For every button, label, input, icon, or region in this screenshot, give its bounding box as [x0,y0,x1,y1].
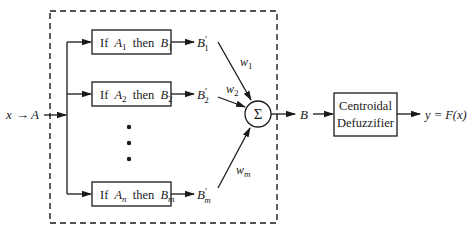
centroidal-defuzzifier-box: Centroidal Defuzzifier [334,93,397,136]
weight-label-2: w2 [226,82,239,98]
rule-box-n: If An then Bm [92,182,175,206]
output-label: y = F(x) [423,108,467,122]
rule-output-n: B′m [197,186,211,205]
svg-text:Defuzzifier: Defuzzifier [337,116,395,130]
weight-label-1: w1 [240,55,253,71]
rule-box-1: If A1 then B1 [92,30,173,54]
summation-node: Σ [245,101,271,127]
fuzzy-system-diagram: x → A If A1 then B1 B′1 If A2 then B2 B′… [0,0,470,232]
rule-box-2: If A2 then B2 [92,82,173,106]
input-label: x → A [5,107,39,122]
svg-text:→: → [16,107,29,122]
ellipsis-dots [127,125,131,161]
rule-output-2: B′2 [197,86,209,105]
rule-output-1: B′1 [197,34,209,53]
weight-label-m: wm [236,163,251,179]
weight-arrow-2 [218,97,245,107]
sum-output-label: B [300,107,308,122]
sigma-icon: Σ [254,106,263,122]
weight-arrow-m [218,128,250,188]
svg-text:x: x [5,107,12,122]
svg-text:Centroidal: Centroidal [339,99,392,113]
svg-text:A: A [30,107,39,122]
